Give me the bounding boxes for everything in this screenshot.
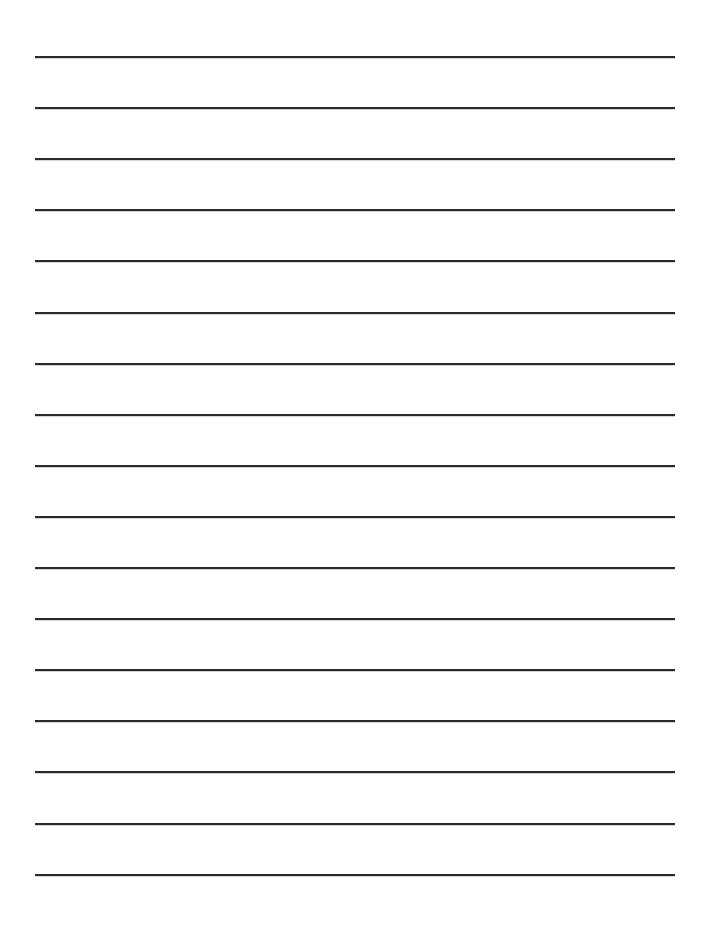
ruled-line: [35, 567, 675, 569]
ruled-line: [35, 516, 675, 518]
ruled-line: [35, 414, 675, 416]
ruled-line: [35, 209, 675, 211]
ruled-line: [35, 312, 675, 314]
ruled-line: [35, 260, 675, 262]
ruled-line: [35, 465, 675, 467]
ruled-line: [35, 107, 675, 109]
ruled-line: [35, 363, 675, 365]
ruled-line: [35, 669, 675, 671]
ruled-line: [35, 720, 675, 722]
ruled-line: [35, 56, 675, 58]
ruled-line: [35, 771, 675, 773]
ruled-line: [35, 823, 675, 825]
ruled-line: [35, 874, 675, 876]
lined-paper-page: [0, 0, 706, 925]
ruled-line: [35, 158, 675, 160]
ruled-line: [35, 618, 675, 620]
